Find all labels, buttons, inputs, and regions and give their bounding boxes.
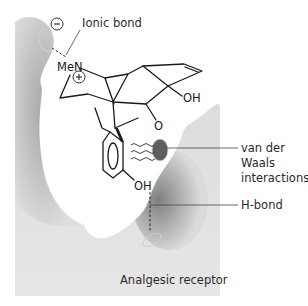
hydroxyl-top-label: OH [183, 92, 201, 104]
vdw-label-line2: Waals [241, 156, 275, 170]
amine-label: MeN [57, 61, 83, 73]
vdw-label-line1: van der [241, 141, 285, 155]
receptor-label: Analgesic receptor [120, 273, 227, 287]
vdw-label-line3: interactions [241, 171, 308, 185]
vdw-site-icon [152, 139, 168, 161]
receptor-diagram: MeN OH O OH Ionic bond van der Waals int… [0, 0, 308, 306]
phenol-hydroxyl-label: OH [134, 180, 152, 192]
ionic-bond-label: Ionic bond [82, 16, 142, 30]
hbond-label: H-bond [241, 198, 283, 212]
ether-oxygen-label: O [154, 120, 163, 132]
